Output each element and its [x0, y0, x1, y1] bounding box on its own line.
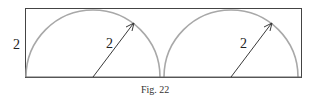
- semicircle-left: [26, 10, 160, 77]
- figure-caption: Fig. 22: [141, 85, 169, 95]
- radius-label-right: 2: [240, 37, 247, 51]
- rectangle-frame: [26, 9, 302, 78]
- height-label: 2: [13, 38, 20, 52]
- figure-diagram: [0, 0, 319, 97]
- semicircle-right: [164, 10, 298, 77]
- radius-label-left: 2: [106, 37, 113, 51]
- radius-arrow-left: [93, 23, 134, 77]
- radius-arrow-right: [231, 23, 272, 77]
